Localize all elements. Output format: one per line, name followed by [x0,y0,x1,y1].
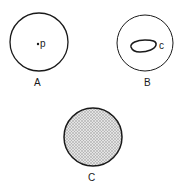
diagram-canvas: p A c B C [0,0,185,190]
circle-a [10,13,68,71]
figure-c-label: C [88,172,95,183]
figure-b: c B [117,15,173,88]
point-p-label: p [40,38,46,49]
figure-b-label: B [144,77,151,88]
closed-curve-c [131,40,156,52]
curve-c-label: c [159,40,164,51]
figure-c: C [64,108,122,183]
shaded-disk-c [64,108,122,166]
figure-a-label: A [34,77,41,88]
circle-b [117,15,173,71]
point-p-dot [37,43,39,45]
figure-a: p A [10,13,68,88]
